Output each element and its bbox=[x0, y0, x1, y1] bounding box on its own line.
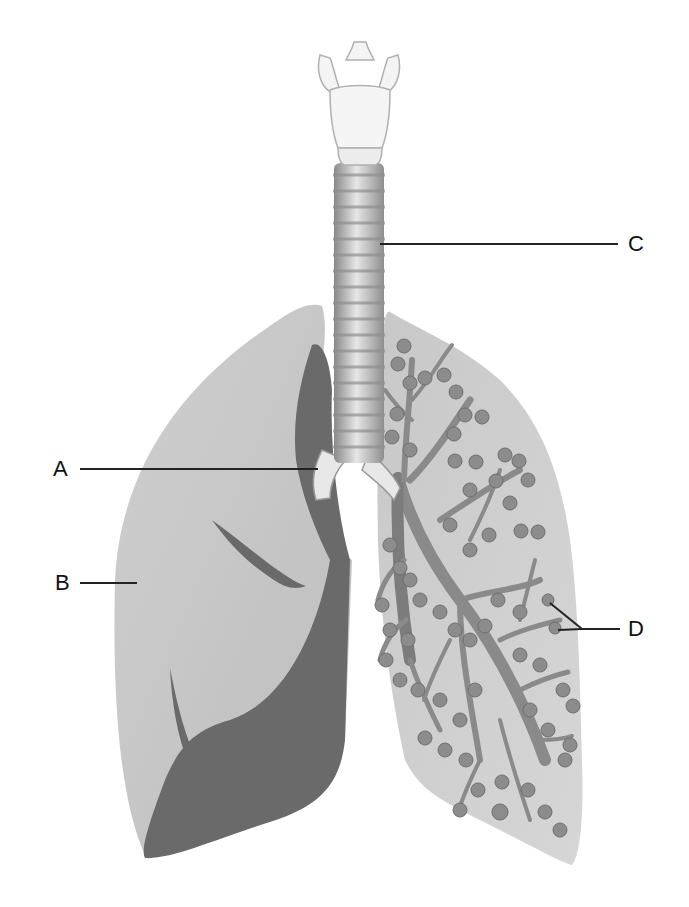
label-a: A bbox=[53, 458, 68, 480]
trachea bbox=[333, 163, 385, 463]
label-d: D bbox=[628, 618, 644, 640]
left-lung bbox=[114, 305, 352, 858]
label-c: C bbox=[628, 233, 644, 255]
right-lung bbox=[375, 312, 583, 865]
leader-line-d-branch-2 bbox=[558, 629, 582, 630]
respiratory-system-diagram bbox=[0, 0, 689, 907]
larynx bbox=[318, 42, 399, 165]
label-b: B bbox=[55, 572, 70, 594]
